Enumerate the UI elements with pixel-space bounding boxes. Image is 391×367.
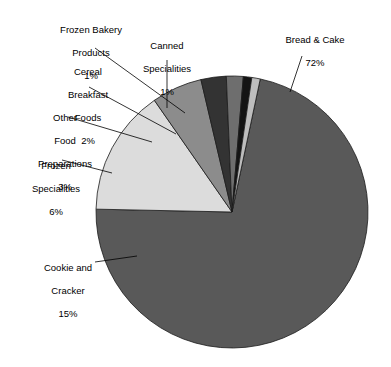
slice-label-bread-and-cake: Bread & Cake 72% [265, 22, 365, 80]
label-line: Other [53, 112, 77, 123]
label-percent: 72% [265, 57, 365, 69]
label-line: Food [54, 135, 76, 146]
label-line: Cookie and [44, 262, 92, 273]
label-line: Canned [150, 40, 183, 51]
label-percent: 6% [6, 206, 106, 218]
slice-label-cookie-and-cracker: Cookie and Cracker 15% [18, 250, 118, 331]
label-line: Frozen [41, 160, 71, 171]
label-line: Bread & Cake [285, 34, 344, 45]
label-line: Specialities [32, 183, 80, 194]
pie-chart-figure: Frozen Bakery Products 1% Canned Special… [0, 0, 391, 367]
label-line: Frozen Bakery [60, 24, 122, 35]
label-line: Breakfast [68, 89, 108, 100]
label-line: Cereal [74, 66, 102, 77]
label-percent: 15% [18, 308, 118, 320]
slice-label-frozen-specialities: Frozen Specialities 6% [6, 148, 106, 229]
label-line: Specialities [143, 63, 191, 74]
label-line: Cracker [51, 285, 84, 296]
